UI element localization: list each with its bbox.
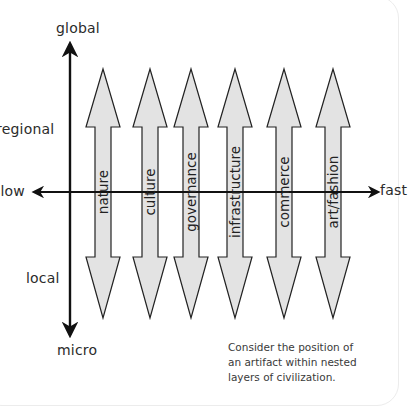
caption-line: an artifact within nested bbox=[228, 355, 398, 370]
caption-line: Consider the position of bbox=[228, 340, 398, 355]
axis-label-micro: micro bbox=[57, 342, 97, 358]
layer-label: governance bbox=[183, 152, 199, 232]
caption-line: layers of civilization. bbox=[228, 370, 398, 385]
axis-label-global: global bbox=[56, 20, 100, 36]
layer-label: commerce bbox=[276, 156, 292, 227]
caption: Consider the position of an artifact wit… bbox=[228, 340, 398, 385]
layer-label: nature bbox=[95, 170, 111, 214]
layer-label: infrastructure bbox=[227, 146, 243, 238]
axis-label-slow: slow bbox=[0, 183, 25, 199]
layer-label: culture bbox=[142, 168, 158, 215]
layer-arrows bbox=[86, 69, 350, 318]
axis-label-regional: regional bbox=[0, 121, 54, 137]
axis-label-fast: fast bbox=[380, 182, 407, 198]
axis-label-local: local bbox=[26, 270, 60, 286]
layer-label: art/fashion bbox=[325, 156, 341, 229]
